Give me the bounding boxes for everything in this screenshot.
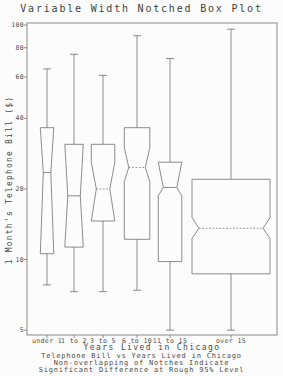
plot-canvas: [0, 0, 283, 376]
boxplot-figure: Variable Width Notched Box Plot 100 80 6…: [0, 0, 283, 376]
ytick-label: 60: [4, 73, 24, 81]
ytick-label: 5: [4, 326, 24, 334]
ytick-label: 80: [4, 44, 24, 52]
y-axis-label: 1 Month's Telephone Bill ($): [5, 96, 14, 264]
x-axis-label: Years Lived in Chicago: [27, 343, 277, 352]
ytick-label: 100: [4, 21, 24, 29]
caption-line: Significant Difference at Rough 95% Leve…: [10, 367, 273, 374]
figure-caption: Telephone Bill vs Years Lived in Chicago…: [10, 353, 273, 375]
